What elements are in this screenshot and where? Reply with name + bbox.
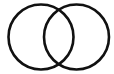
venn-diagram bbox=[0, 0, 114, 74]
right-circle bbox=[44, 5, 109, 70]
left-circle bbox=[9, 5, 74, 70]
